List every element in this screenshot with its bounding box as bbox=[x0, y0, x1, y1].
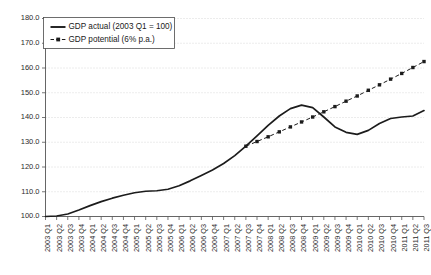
x-tick-label: 2010 Q1 bbox=[355, 224, 364, 252]
x-tick-label: 2007 Q1 bbox=[222, 224, 231, 252]
y-tick-label: 180.0 bbox=[21, 13, 40, 22]
x-tick-label: 2008 Q2 bbox=[277, 224, 286, 252]
x-tick-label: 2005 Q1 bbox=[132, 224, 141, 252]
data-series bbox=[46, 60, 426, 217]
x-tick-label: 2007 Q4 bbox=[255, 224, 264, 252]
legend-item-label: GDP potential (6% p.a.) bbox=[69, 35, 156, 44]
x-tick-label: 2006 Q2 bbox=[188, 224, 197, 252]
series-gdp-actual bbox=[46, 105, 425, 216]
x-tick-label: 2003 Q2 bbox=[55, 224, 64, 252]
data-point-marker bbox=[289, 125, 292, 128]
x-tick-label: 2009 Q3 bbox=[333, 224, 342, 252]
x-tick-label: 2011 Q1 bbox=[400, 224, 409, 251]
x-tick-label: 2007 Q2 bbox=[233, 224, 242, 252]
gdp-chart: 100.0110.0120.0130.0140.0150.0160.0170.0… bbox=[0, 0, 431, 275]
x-tick-label: 2005 Q3 bbox=[155, 224, 164, 252]
y-axis: 100.0110.0120.0130.0140.0150.0160.0170.0… bbox=[21, 13, 46, 220]
data-point-marker bbox=[367, 89, 370, 92]
y-tick-label: 130.0 bbox=[21, 137, 40, 146]
y-tick-label: 100.0 bbox=[21, 211, 40, 220]
x-tick-label: 2004 Q1 bbox=[88, 224, 97, 252]
data-point-marker bbox=[389, 77, 392, 80]
x-tick-label: 2006 Q4 bbox=[210, 224, 219, 252]
x-tick-label: 2008 Q3 bbox=[288, 224, 297, 252]
x-tick-label: 2003 Q4 bbox=[77, 224, 86, 252]
data-point-marker bbox=[411, 66, 414, 69]
x-tick-label: 2008 Q1 bbox=[266, 224, 275, 252]
data-point-marker bbox=[422, 60, 425, 63]
y-tick-label: 160.0 bbox=[21, 63, 40, 72]
data-point-marker bbox=[356, 94, 359, 97]
y-tick-label: 110.0 bbox=[21, 187, 39, 196]
data-point-marker bbox=[400, 72, 403, 75]
data-point-marker bbox=[344, 99, 347, 102]
x-tick-label: 2011 Q2 bbox=[411, 224, 420, 251]
data-point-marker bbox=[278, 130, 281, 133]
legend-item-label: GDP actual (2003 Q1 = 100) bbox=[69, 22, 173, 31]
x-tick-label: 2009 Q1 bbox=[311, 224, 320, 252]
chart-canvas: 100.0110.0120.0130.0140.0150.0160.0170.0… bbox=[0, 0, 431, 275]
x-tick-label: 2010 Q3 bbox=[377, 224, 386, 252]
data-point-marker bbox=[333, 105, 336, 108]
x-tick-label: 2004 Q2 bbox=[99, 224, 108, 252]
x-tick-label: 2008 Q4 bbox=[299, 224, 308, 252]
legend-swatch-marker bbox=[56, 38, 60, 42]
x-tick-label: 2009 Q4 bbox=[344, 224, 353, 252]
x-tick-label: 2006 Q3 bbox=[199, 224, 208, 252]
x-tick-label: 2009 Q2 bbox=[322, 224, 331, 252]
x-tick-label: 2004 Q4 bbox=[121, 224, 130, 252]
x-tick-label: 2005 Q4 bbox=[166, 224, 175, 252]
x-tick-label: 2003 Q1 bbox=[43, 224, 52, 252]
x-tick-label: 2003 Q3 bbox=[66, 224, 75, 252]
y-tick-label: 170.0 bbox=[21, 38, 40, 47]
y-tick-label: 150.0 bbox=[21, 88, 40, 97]
x-tick-label: 2004 Q3 bbox=[110, 224, 119, 252]
x-tick-label: 2011 Q3 bbox=[422, 224, 431, 251]
data-point-marker bbox=[266, 135, 269, 138]
x-tick-label: 2005 Q2 bbox=[144, 224, 153, 252]
data-point-marker bbox=[255, 140, 258, 143]
data-point-marker bbox=[244, 145, 247, 148]
x-tick-label: 2007 Q3 bbox=[244, 224, 253, 252]
data-point-marker bbox=[300, 120, 303, 123]
x-tick-label: 2006 Q1 bbox=[177, 224, 186, 252]
x-tick-label: 2010 Q2 bbox=[366, 224, 375, 252]
data-point-marker bbox=[311, 115, 314, 118]
series-gdp-potential bbox=[246, 62, 424, 147]
data-point-marker bbox=[322, 110, 325, 113]
x-tick-label: 2010 Q4 bbox=[389, 224, 398, 252]
y-tick-label: 140.0 bbox=[21, 112, 40, 121]
chart-legend: GDP actual (2003 Q1 = 100)GDP potential … bbox=[44, 18, 175, 49]
x-axis: 2003 Q12003 Q22003 Q32003 Q42004 Q12004 … bbox=[43, 217, 431, 253]
y-tick-label: 120.0 bbox=[21, 162, 40, 171]
data-point-marker bbox=[378, 83, 381, 86]
